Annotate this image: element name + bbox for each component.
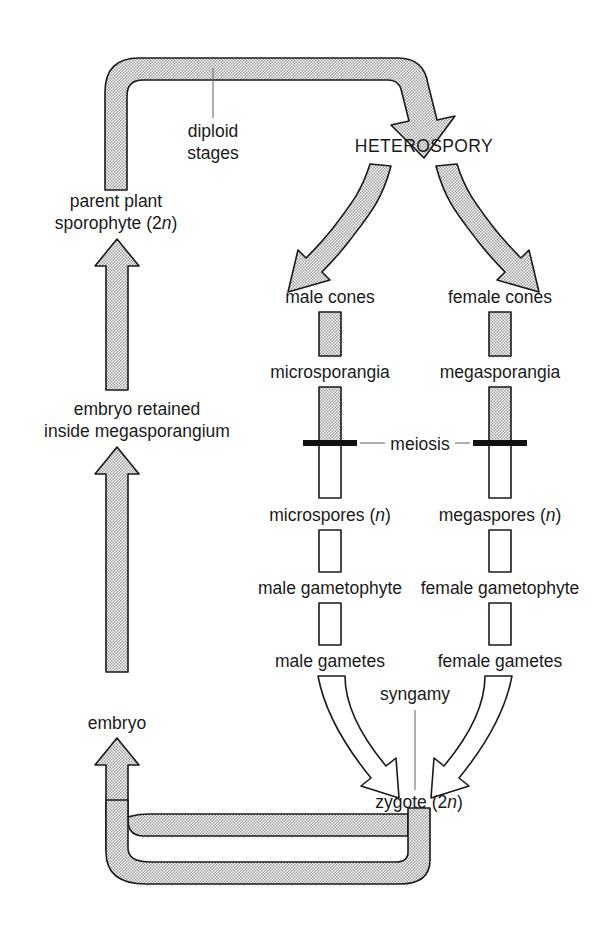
megaspores-label: megaspores (n) <box>439 505 562 525</box>
microsporangia-diploid-bar <box>319 387 341 443</box>
megaspores-haploid-bar <box>489 443 511 498</box>
female-cones-to-megasporangia-bar <box>489 312 511 356</box>
syngamy-label: syngamy <box>380 684 450 704</box>
meiosis-label: meiosis <box>390 434 450 454</box>
female-gametophyte-label: female gametophyte <box>421 578 580 598</box>
embryo-label: embryo <box>88 713 146 733</box>
male-cones-to-microsporangia-bar <box>319 312 341 356</box>
parent-plant-label-line2: sporophyte (2n) <box>55 213 178 233</box>
male-gametes-label: male gametes <box>275 651 385 671</box>
life-cycle-diagram: diploid stages HETEROSPORY parent plant … <box>0 0 616 937</box>
embryo-retained-label-line2: inside megasporangium <box>44 421 230 441</box>
female-gametophyte-to-gametes-bar <box>489 603 511 645</box>
diploid-stages-label-line2: stages <box>187 143 239 163</box>
diagram-background <box>0 0 616 937</box>
microspores-to-male-gametophyte-bar <box>319 530 341 572</box>
female-cones-label: female cones <box>448 287 552 307</box>
diploid-stages-label-line1: diploid <box>188 121 239 141</box>
microspores-label: microspores (n) <box>269 505 391 525</box>
male-cones-label: male cones <box>285 287 375 307</box>
heterospory-label: HETEROSPORY <box>355 136 493 156</box>
parent-plant-label-line1: parent plant <box>70 191 163 211</box>
microspores-haploid-bar <box>319 443 341 498</box>
male-gametophyte-to-gametes-bar <box>319 603 341 645</box>
megasporangia-diploid-bar <box>489 387 511 443</box>
embryo-retained-label-line1: embryo retained <box>74 399 200 419</box>
zygote-label: zygote (2n) <box>375 792 463 812</box>
megasporangia-label: megasporangia <box>440 362 561 382</box>
megaspores-to-female-gametophyte-bar <box>489 530 511 572</box>
female-gametes-label: female gametes <box>438 651 563 671</box>
male-gametophyte-label: male gametophyte <box>258 578 402 598</box>
microsporangia-label: microsporangia <box>270 362 390 382</box>
